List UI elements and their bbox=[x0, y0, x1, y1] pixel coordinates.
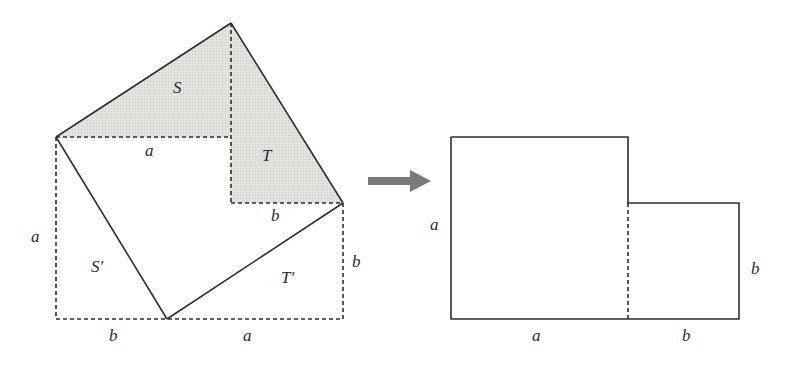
region-label-s-prime: S′ bbox=[91, 257, 104, 276]
region-label-t: T bbox=[262, 146, 273, 165]
label-square-b-side: b bbox=[751, 259, 760, 278]
label-bottom-a: a bbox=[243, 326, 252, 345]
label-right-b: b bbox=[352, 252, 361, 271]
label-left-a: a bbox=[31, 227, 40, 246]
label-bottom-b: b bbox=[682, 326, 691, 345]
region-label-t-prime: T′ bbox=[281, 268, 294, 287]
label-square-a-side: a bbox=[430, 215, 439, 234]
region-label-s: S bbox=[173, 78, 182, 97]
label-bottom-a: a bbox=[532, 326, 541, 345]
tilted-square-bottom-left-edge bbox=[56, 137, 167, 319]
label-bottom-b: b bbox=[109, 326, 118, 345]
transform-arrow-icon bbox=[368, 170, 431, 192]
composite-shape-outline bbox=[451, 137, 739, 319]
right-figure: a b a b bbox=[430, 137, 760, 345]
label-inner-a: a bbox=[145, 141, 154, 160]
tilted-square-bottom-right-edge bbox=[167, 203, 343, 319]
label-inner-b: b bbox=[271, 206, 280, 225]
pythagorean-rearrangement-diagram: S T S′ T′ a b a b b a a b a b bbox=[0, 0, 790, 370]
left-figure: S T S′ T′ a b a b b a bbox=[31, 23, 361, 345]
